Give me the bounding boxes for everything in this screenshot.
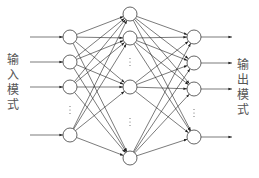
input-node [63, 30, 77, 44]
connection-arrow [135, 94, 189, 153]
ellipsis-dot [193, 116, 194, 117]
connection-arrow [77, 138, 124, 156]
ellipsis-dot [69, 113, 70, 114]
ellipsis-dot [129, 121, 130, 122]
connection-arrow [133, 43, 190, 152]
input-pattern-label: 输 入 模 式 [6, 53, 20, 113]
connection-arrow [75, 92, 126, 152]
ellipsis-dot [129, 118, 130, 119]
output-node [187, 82, 201, 96]
hidden-node [123, 151, 137, 165]
hidden-node [123, 80, 137, 94]
hidden-node [123, 7, 137, 21]
ellipsis-dot [69, 106, 70, 107]
connection-arrow [136, 18, 189, 58]
connection-arrow [137, 65, 188, 84]
input-node [63, 80, 77, 94]
ellipsis-dot [193, 112, 194, 113]
output-node [187, 56, 201, 70]
input-node [63, 55, 77, 69]
connection-arrow [135, 19, 190, 83]
ellipsis-dot [129, 65, 130, 66]
connection-arrow [137, 37, 187, 38]
connection-arrow [76, 41, 123, 60]
connection-arrow [73, 20, 127, 128]
ellipsis-dot [129, 61, 130, 62]
connection-arrow [137, 41, 188, 61]
ellipsis-dot [69, 109, 70, 110]
connection-arrow [74, 44, 127, 129]
connection-arrow [73, 43, 127, 151]
ellipsis-dot [129, 125, 130, 126]
connection-arrow [135, 42, 188, 84]
input-node [63, 128, 77, 142]
connection-arrow [137, 16, 188, 34]
neural-network-diagram [0, 0, 259, 178]
connection-arrow [137, 139, 188, 156]
output-pattern-label: 输 出 模 式 [236, 58, 250, 118]
connection-arrow [134, 69, 190, 152]
ellipsis-dot [193, 109, 194, 110]
connection-arrow [74, 19, 125, 81]
ellipsis-dot [129, 58, 130, 59]
hidden-node [123, 31, 137, 45]
connection-arrow [77, 17, 124, 35]
output-node [187, 30, 201, 44]
output-node [187, 130, 201, 144]
